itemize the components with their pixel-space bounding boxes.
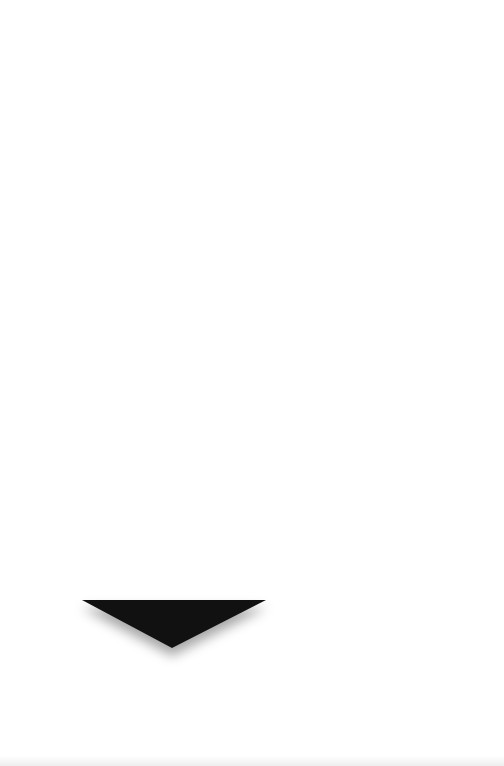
blank-page — [0, 0, 504, 766]
bottom-edge-shadow — [0, 756, 504, 766]
down-arrow-button[interactable] — [82, 600, 266, 649]
triangle-down-icon — [82, 600, 266, 649]
